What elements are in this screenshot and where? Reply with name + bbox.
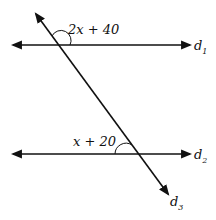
diagram: 2x + 40 x + 20 d1 d2 d3 <box>0 0 216 220</box>
angle-label-1: 2x + 40 <box>67 22 119 37</box>
line-label-d2: d2 <box>194 147 207 165</box>
angle-label-2: x + 20 <box>73 134 116 149</box>
geometry-figure: 2x + 40 x + 20 d1 d2 d3 <box>0 0 216 220</box>
angle-arc-d2 <box>115 143 132 154</box>
line-label-d1: d1 <box>194 38 207 56</box>
line-d3 <box>36 14 168 194</box>
line-label-d3: d3 <box>170 194 183 212</box>
